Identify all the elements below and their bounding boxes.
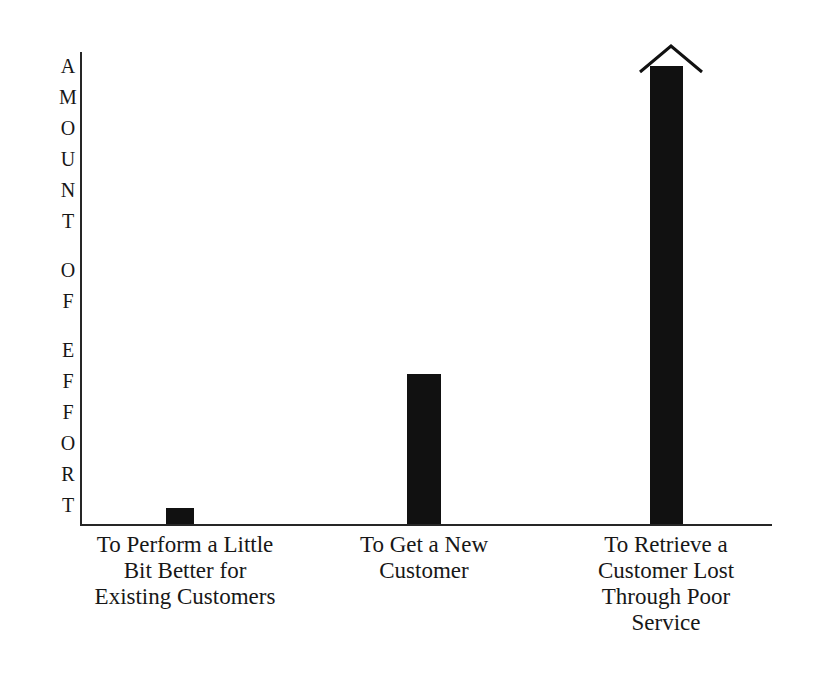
bar-retrieve-a-lost-customer — [650, 66, 683, 524]
chart-canvas: A M O U N T O F E F F O R T To Perform a… — [0, 0, 817, 676]
category-label-line: Customer — [299, 558, 549, 584]
category-label-line: Customer Lost — [541, 558, 791, 584]
y-axis-title-letter: T — [62, 495, 74, 526]
category-label-line: Bit Better for — [35, 558, 335, 584]
y-axis-title-letter: O — [61, 118, 75, 149]
y-axis-title-letter: R — [61, 464, 74, 495]
bar-perform-a-little-bit-better — [166, 508, 194, 524]
y-axis-title-letter: N — [61, 180, 75, 211]
y-axis-title-letter: T — [62, 211, 74, 242]
y-axis-title-letter: M — [59, 87, 77, 118]
bar-overflow-arrow-icon — [636, 42, 706, 76]
y-axis-title-letter: U — [61, 149, 75, 180]
category-label-line: Existing Customers — [35, 584, 335, 610]
bar-get-a-new-customer — [407, 374, 441, 524]
category-label-line: To Get a New — [299, 532, 549, 558]
category-label-retrieve-a-lost-customer: To Retrieve a Customer Lost Through Poor… — [541, 532, 791, 636]
category-label-line: To Perform a Little — [35, 532, 335, 558]
category-label-line: To Retrieve a — [541, 532, 791, 558]
y-axis-title-letter: F — [62, 291, 73, 322]
category-label-line: Service — [541, 610, 791, 636]
y-axis-title-letter: E — [62, 340, 74, 371]
category-label-perform-a-little-bit-better: To Perform a Little Bit Better for Exist… — [35, 532, 335, 610]
y-axis-title-letter: O — [61, 260, 75, 291]
category-label-line: Through Poor — [541, 584, 791, 610]
y-axis-title-letter: A — [61, 56, 75, 87]
x-axis-line — [80, 524, 772, 526]
y-axis-title: A M O U N T O F E F F O R T — [55, 56, 81, 526]
y-axis-title-letter: O — [61, 433, 75, 464]
y-axis-title-letter: F — [62, 402, 73, 433]
y-axis-title-letter: F — [62, 371, 73, 402]
category-label-get-a-new-customer: To Get a New Customer — [299, 532, 549, 584]
